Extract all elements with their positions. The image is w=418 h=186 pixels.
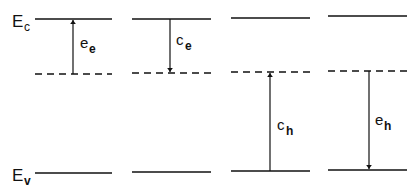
ev-label-sub: v bbox=[24, 174, 31, 186]
transition-label-main: c bbox=[277, 116, 285, 133]
ev-label-main: E bbox=[12, 166, 23, 185]
transition-label-sub: h bbox=[286, 124, 293, 138]
ec-label-sub: c bbox=[24, 20, 30, 34]
valence-band-label: E v bbox=[12, 166, 31, 186]
conduction-band-label: E c bbox=[12, 12, 30, 34]
transition-label-sub: h bbox=[384, 119, 391, 133]
panel-electron-emission: e e bbox=[35, 19, 112, 173]
band-diagram: E c E v e e c e c h e h bbox=[0, 0, 418, 186]
transition-label-sub: e bbox=[89, 42, 96, 56]
panel-hole-capture: c h bbox=[231, 18, 310, 171]
transition-label-main: c bbox=[176, 31, 184, 48]
panel-electron-capture: c e bbox=[132, 19, 211, 172]
panel-hole-emission: e h bbox=[328, 16, 407, 170]
ec-label-main: E bbox=[12, 12, 23, 31]
transition-label-sub: e bbox=[185, 39, 192, 53]
transition-label-main: e bbox=[375, 111, 383, 128]
transition-label-main: e bbox=[80, 34, 88, 51]
